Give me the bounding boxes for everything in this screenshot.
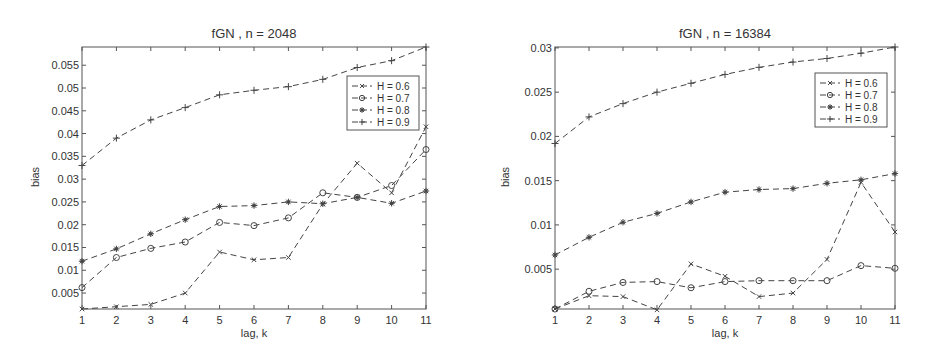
marker-star-icon xyxy=(182,216,188,222)
marker-plus-icon xyxy=(755,64,762,71)
plot-left-n2048: fGN , n = 2048 lag, k bias 1234567891011… xyxy=(29,26,432,339)
y-axis-label: bias xyxy=(29,166,41,187)
legend-label: H = 0.9 xyxy=(377,117,410,128)
legend-label: H = 0.6 xyxy=(845,78,878,89)
y-tick-label: 0.005 xyxy=(524,263,552,275)
y-tick-label: 0.03 xyxy=(531,42,552,54)
y-tick-label: 0.01 xyxy=(58,264,79,276)
marker-circle-icon xyxy=(586,288,592,294)
plot-title: fGN , n = 2048 xyxy=(212,26,297,41)
series-06 xyxy=(80,124,428,311)
marker-star-icon xyxy=(359,107,365,113)
marker-plus-icon xyxy=(789,59,796,66)
y-tick-label: 0.02 xyxy=(58,219,79,231)
marker-star-icon xyxy=(285,199,291,205)
x-tick-label: 1 xyxy=(79,314,85,326)
series-line xyxy=(82,127,426,309)
y-tick-label: 0.015 xyxy=(524,175,552,187)
marker-star-icon xyxy=(722,189,728,195)
marker-star-icon xyxy=(790,185,796,191)
marker-plus-icon xyxy=(857,50,864,57)
series-line xyxy=(555,266,895,309)
figure: fGN , n = 2048 lag, k bias 1234567891011… xyxy=(0,0,930,359)
x-tick-label: 6 xyxy=(722,314,728,326)
x-tick-label: 3 xyxy=(620,314,626,326)
marker-star-icon xyxy=(858,177,864,183)
plot-title: fGN , n = 16384 xyxy=(679,26,771,41)
marker-x-icon xyxy=(621,294,625,298)
plot-right-n16384: fGN , n = 16384 lag, k bias 123456789101… xyxy=(499,26,901,339)
y-tick-label: 0.045 xyxy=(51,105,79,117)
y-tick-label: 0.035 xyxy=(51,150,79,162)
marker-plus-icon xyxy=(354,64,361,71)
legend: H = 0.6H = 0.7H = 0.8H = 0.9 xyxy=(347,76,419,130)
marker-plus-icon xyxy=(585,113,592,120)
series-line xyxy=(555,182,895,310)
marker-star-icon xyxy=(148,231,154,237)
marker-plus-icon xyxy=(319,76,326,83)
series-08 xyxy=(552,170,898,258)
marker-star-icon xyxy=(388,200,394,206)
marker-plus-icon xyxy=(147,116,154,123)
marker-plus-icon xyxy=(285,83,292,90)
y-tick-label: 0.05 xyxy=(58,82,79,94)
x-tick-label: 11 xyxy=(889,314,900,326)
marker-x-icon xyxy=(825,257,829,261)
marker-circle-icon xyxy=(389,182,395,188)
legend-label: H = 0.9 xyxy=(845,114,878,125)
y-tick-label: 0.02 xyxy=(531,130,552,142)
marker-plus-icon xyxy=(422,43,429,50)
series-07 xyxy=(79,146,429,290)
legend: H = 0.6H = 0.7H = 0.8H = 0.9 xyxy=(815,73,887,127)
x-tick-label: 10 xyxy=(855,314,867,326)
x-tick-label: 2 xyxy=(586,314,592,326)
marker-star-icon xyxy=(423,188,429,194)
x-tick-label: 8 xyxy=(790,314,796,326)
marker-plus-icon xyxy=(823,55,830,62)
y-tick-label: 0.03 xyxy=(58,173,79,185)
x-tick-label: 1 xyxy=(552,314,558,326)
figure-canvas: fGN , n = 2048 lag, k bias 1234567891011… xyxy=(0,0,930,359)
marker-plus-icon xyxy=(216,91,223,98)
marker-star-icon xyxy=(620,219,626,225)
x-tick-label: 4 xyxy=(182,314,188,326)
legend-label: H = 0.7 xyxy=(377,93,410,104)
x-tick-label: 10 xyxy=(385,314,397,326)
x-tick-label: 11 xyxy=(420,314,431,326)
y-tick-label: 0.055 xyxy=(51,59,79,71)
x-tick-label: 7 xyxy=(756,314,762,326)
x-tick-label: 2 xyxy=(113,314,119,326)
x-axis-label: lag, k xyxy=(712,327,739,339)
marker-plus-icon xyxy=(687,80,694,87)
marker-star-icon xyxy=(827,104,833,110)
marker-plus-icon xyxy=(653,89,660,96)
series-06 xyxy=(553,180,897,312)
y-tick-label: 0.005 xyxy=(51,287,79,299)
marker-x-icon xyxy=(723,274,727,278)
x-tick-label: 9 xyxy=(824,314,830,326)
x-tick-label: 6 xyxy=(251,314,257,326)
legend-label: H = 0.6 xyxy=(377,81,410,92)
legend-label: H = 0.8 xyxy=(377,105,410,116)
y-tick-label: 0.025 xyxy=(524,86,552,98)
marker-plus-icon xyxy=(182,104,189,111)
series-line xyxy=(555,174,895,255)
marker-star-icon xyxy=(586,234,592,240)
marker-star-icon xyxy=(688,199,694,205)
y-tick-label: 0.025 xyxy=(51,196,79,208)
x-tick-label: 7 xyxy=(285,314,291,326)
series-line xyxy=(82,150,426,288)
marker-star-icon xyxy=(320,201,326,207)
x-tick-label: 5 xyxy=(688,314,694,326)
y-tick-label: 0.015 xyxy=(51,241,79,253)
marker-plus-icon xyxy=(891,43,898,50)
legend-label: H = 0.8 xyxy=(845,102,878,113)
x-tick-label: 3 xyxy=(148,314,154,326)
marker-x-icon xyxy=(286,255,290,259)
marker-star-icon xyxy=(892,170,898,176)
y-tick-label: 0.04 xyxy=(58,128,79,140)
marker-circle-icon xyxy=(824,278,830,284)
marker-star-icon xyxy=(756,186,762,192)
y-axis-label: bias xyxy=(499,166,511,187)
x-tick-label: 9 xyxy=(354,314,360,326)
